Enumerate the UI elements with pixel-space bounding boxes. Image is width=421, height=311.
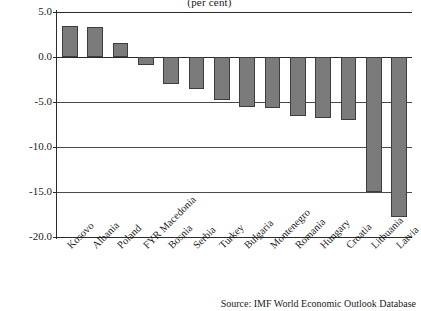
- bar: [87, 27, 103, 57]
- bar: [290, 57, 306, 116]
- bar: [315, 57, 331, 118]
- source-note: Source: IMF World Economic Outlook Datab…: [221, 298, 416, 309]
- y-axis-tick-label: 0.0: [2, 51, 52, 62]
- bar: [214, 57, 230, 100]
- bar: [239, 57, 255, 107]
- bar: [113, 43, 129, 57]
- bar: [391, 57, 407, 217]
- x-axis-labels: KosovoAlbaniaPolandFYR MacedoniaBosniaSe…: [57, 239, 412, 299]
- y-axis-tick-label: -20.0: [2, 231, 52, 242]
- bar: [163, 57, 179, 84]
- bar-series: [57, 12, 412, 237]
- bar: [189, 57, 205, 89]
- y-axis-tick-label: -5.0: [2, 96, 52, 107]
- bar: [138, 57, 154, 65]
- bar: [62, 26, 78, 58]
- bar: [366, 57, 382, 192]
- y-axis-tick-label: -15.0: [2, 186, 52, 197]
- y-axis-tick-label: -10.0: [2, 141, 52, 152]
- y-axis-tick-label: 5.0: [2, 6, 52, 17]
- bar: [341, 57, 357, 120]
- bar: [265, 57, 281, 108]
